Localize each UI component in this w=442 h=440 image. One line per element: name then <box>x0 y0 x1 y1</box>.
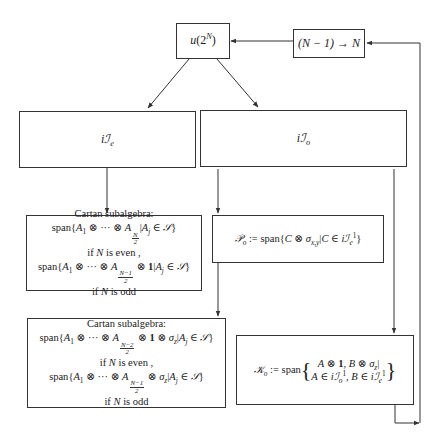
arrow-ko-loop-out <box>395 405 419 423</box>
ko-row2: A ∈ iℐo1, B ∈ iℐe1 <box>311 370 385 383</box>
po-label: 𝒫o := span{C ⊗ σx,y|C ∈ iℐe1} <box>235 232 362 246</box>
cartan-ie-even-span: span{A1 ⊗ ··· ⊗ AN2|Aj ∈ 𝒮} <box>52 221 177 246</box>
ie-label: iℐe <box>101 132 114 148</box>
cartan-ie-odd-span: span{A1 ⊗ ··· ⊗ AN−12 ⊗ 1|Aj ∈ 𝒮} <box>38 260 190 285</box>
node-ko: 𝒦o := span { A ⊗ 1, B ⊗ σz| A ∈ iℐo1, B … <box>236 335 414 405</box>
node-cartan-io: Cartan subalgebra: span{A1 ⊗ ··· ⊗ AN−22… <box>27 318 226 408</box>
ko-label: 𝒦o := span <box>254 363 301 377</box>
cartan-ie-odd-cond: if N is odd <box>92 285 136 299</box>
cartan-io-even-span: span{A1 ⊗ ··· ⊗ AN−22 ⊗ 1 ⊗ σz|Aj ∈ 𝒮} <box>39 331 213 356</box>
u2n-label: u(2N) <box>190 33 216 49</box>
node-ie: iℐe <box>19 111 196 168</box>
cartan-ie-even-cond: if N is even , <box>87 246 140 260</box>
arrow-u2n-to-io <box>217 59 258 107</box>
ko-set: A ⊗ 1, B ⊗ σz| A ∈ iℐo1, B ∈ iℐe1 <box>311 357 385 383</box>
arrow-u2n-to-ie <box>148 59 189 108</box>
node-io: iℐo <box>200 110 407 167</box>
node-po: 𝒫o := span{C ⊗ σx,y|C ∈ iℐe1} <box>212 215 384 263</box>
cartan-io-odd-span: span{A1 ⊗ ··· ⊗ AN−12 ⊗ σz|Aj ∈ 𝒮} <box>49 370 204 395</box>
io-label: iℐo <box>297 131 311 147</box>
node-u2n: u(2N) <box>176 23 230 59</box>
shift-label: (N − 1) → N <box>298 36 360 52</box>
node-cartan-ie: Cartan subalgebra: span{A1 ⊗ ··· ⊗ AN2|A… <box>26 215 202 291</box>
ko-row1: A ⊗ 1, B ⊗ σz| <box>311 357 385 370</box>
cartan-io-even-cond: if N is even , <box>100 356 153 370</box>
cartan-io-title: Cartan subalgebra: <box>87 317 166 331</box>
node-shift: (N − 1) → N <box>293 29 365 58</box>
left-brace: { <box>301 359 312 381</box>
right-brace: } <box>386 359 397 381</box>
cartan-ie-title: Cartan subalgebra: <box>74 207 153 221</box>
cartan-io-odd-cond: if N is odd <box>104 395 148 409</box>
